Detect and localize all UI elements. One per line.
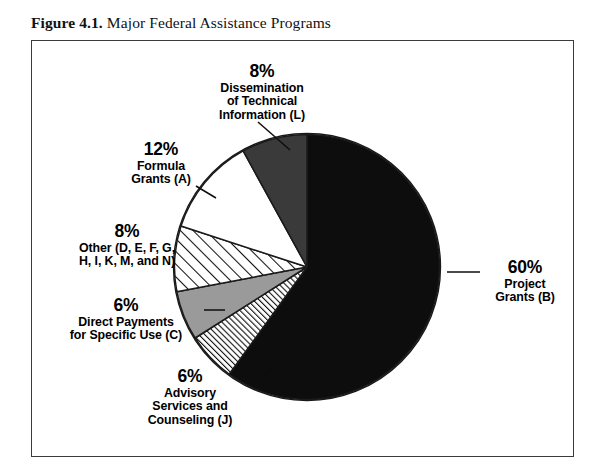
callout-advisory-services-line3: Counseling (J) xyxy=(104,414,276,428)
callout-advisory-services-line2: Services and xyxy=(104,400,276,414)
callout-advisory-services-percent: 6% xyxy=(104,367,276,387)
callout-dissemination-line3: Information (L) xyxy=(172,109,352,123)
callout-dissemination: 8% Dissemination of Technical Informatio… xyxy=(172,62,352,123)
callout-advisory-services-line1: Advisory xyxy=(104,387,276,401)
callout-project-grants-line1: Project xyxy=(470,278,580,292)
callout-dissemination-line1: Dissemination xyxy=(172,82,352,96)
callout-formula-grants: 12% Formula Grants (A) xyxy=(102,140,220,187)
callout-formula-grants-percent: 12% xyxy=(102,140,220,160)
callout-dissemination-line2: of Technical xyxy=(172,95,352,109)
callout-direct-payments: 6% Direct Payments for Specific Use (C) xyxy=(38,296,214,343)
callout-dissemination-percent: 8% xyxy=(172,62,352,82)
callout-other-line2: H, I, K, M, and N) xyxy=(42,255,212,269)
callout-other-percent: 8% xyxy=(42,222,212,242)
callout-advisory-services: 6% Advisory Services and Counseling (J) xyxy=(104,367,276,428)
callout-other: 8% Other (D, E, F, G, H, I, K, M, and N) xyxy=(42,222,212,269)
callout-project-grants-line2: Grants (B) xyxy=(470,291,580,305)
callout-formula-grants-line2: Grants (A) xyxy=(102,173,220,187)
callout-direct-payments-percent: 6% xyxy=(38,296,214,316)
callout-project-grants-percent: 60% xyxy=(470,258,580,278)
callout-direct-payments-line1: Direct Payments xyxy=(38,316,214,330)
callout-other-line1: Other (D, E, F, G, xyxy=(42,242,212,256)
callout-project-grants: 60% Project Grants (B) xyxy=(470,258,580,305)
callout-formula-grants-line1: Formula xyxy=(102,160,220,174)
callout-direct-payments-line2: for Specific Use (C) xyxy=(38,329,214,343)
